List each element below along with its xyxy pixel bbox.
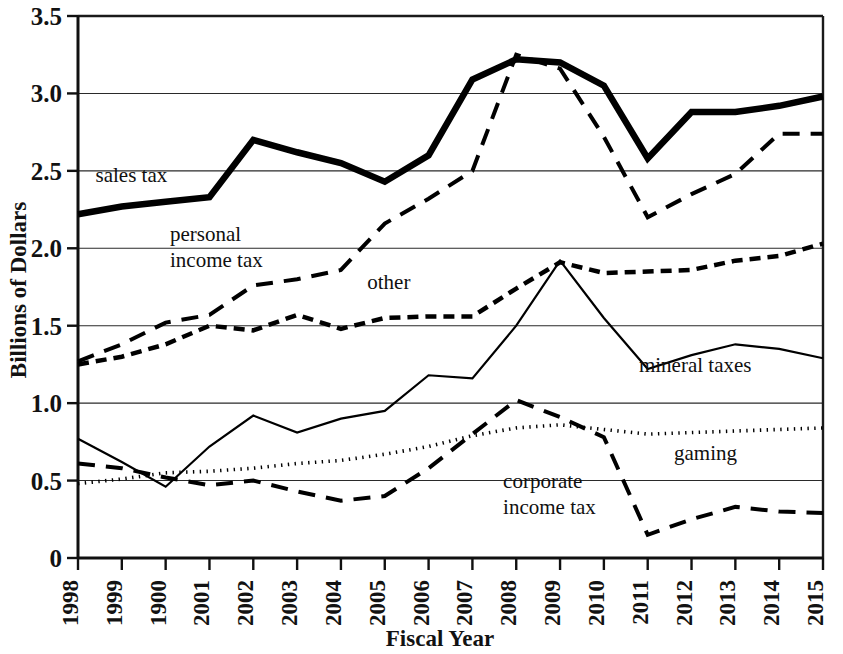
y-tick-label: 1.5 <box>31 313 62 340</box>
x-tick-label: 2013 <box>715 580 740 626</box>
x-tick-label: 2003 <box>277 580 302 626</box>
x-axis-tick-labels: 1998199919002001200220032004200520062007… <box>58 580 828 627</box>
y-axis-ticks <box>67 16 78 558</box>
x-tick-label: 2010 <box>584 580 609 626</box>
series-label: gaming <box>674 441 737 465</box>
series-label: sales tax <box>96 163 168 187</box>
x-tick-label: 2015 <box>803 580 828 626</box>
series-label: income tax <box>170 248 263 272</box>
y-tick-label: 1.0 <box>31 390 62 417</box>
series-label: income tax <box>503 495 596 519</box>
x-tick-label: 2005 <box>365 580 390 626</box>
chart-container: 00.51.01.52.02.53.03.5 19981999190020012… <box>0 0 843 654</box>
x-tick-label: 2002 <box>233 580 258 626</box>
x-tick-label: 1900 <box>146 580 171 626</box>
plot-frame <box>78 16 823 558</box>
x-tick-label: 2006 <box>409 580 434 626</box>
series-label: corporate <box>503 469 582 493</box>
x-tick-label: 2004 <box>321 580 346 627</box>
x-tick-label: 2014 <box>759 580 784 627</box>
x-tick-label: 2009 <box>540 580 565 626</box>
y-tick-label: 0.5 <box>31 468 62 495</box>
x-tick-label: 1999 <box>102 580 127 626</box>
x-tick-label: 2007 <box>452 580 477 626</box>
series-label: mineral taxes <box>639 353 752 377</box>
x-tick-label: 1998 <box>58 580 83 626</box>
x-tick-label: 2012 <box>672 580 697 626</box>
series-line <box>78 400 823 535</box>
gridlines-group <box>78 93 823 480</box>
y-tick-label: 3.0 <box>31 80 62 107</box>
series-line <box>78 59 823 214</box>
x-tick-label: 2011 <box>628 580 653 625</box>
y-tick-label: 2.5 <box>31 158 62 185</box>
y-tick-label: 2.0 <box>31 235 62 262</box>
y-axis-tick-labels: 00.51.01.52.02.53.03.5 <box>31 3 62 572</box>
line-chart: 00.51.01.52.02.53.03.5 19981999190020012… <box>0 0 843 654</box>
y-axis-title: Billions of Dollars <box>6 202 31 378</box>
series-label: other <box>367 270 410 294</box>
x-tick-label: 2001 <box>189 580 214 626</box>
x-axis-ticks <box>78 558 823 570</box>
x-axis-title: Fiscal Year <box>386 626 494 651</box>
y-tick-label: 0 <box>50 545 63 572</box>
x-tick-label: 2008 <box>496 580 521 626</box>
series-label: personal <box>170 222 241 246</box>
y-tick-label: 3.5 <box>31 3 62 30</box>
